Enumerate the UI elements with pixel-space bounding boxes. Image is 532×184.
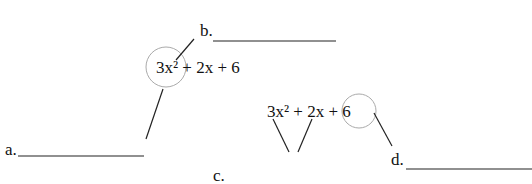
label-a: a. — [5, 141, 17, 158]
expression-top: 3x² + 2x + 6 — [156, 59, 240, 76]
pointer-line-a — [146, 89, 163, 139]
pointer-line-c-right — [298, 119, 312, 152]
label-d: d. — [391, 151, 404, 168]
expression-bottom: 3x² + 2x + 6 — [267, 103, 351, 120]
pointer-line-d — [374, 113, 392, 146]
label-c: c. — [213, 167, 225, 184]
diagram-lines — [0, 0, 532, 184]
pointer-line-c-left — [273, 119, 289, 152]
label-b: b. — [200, 22, 213, 39]
pointer-line-b — [176, 39, 194, 60]
